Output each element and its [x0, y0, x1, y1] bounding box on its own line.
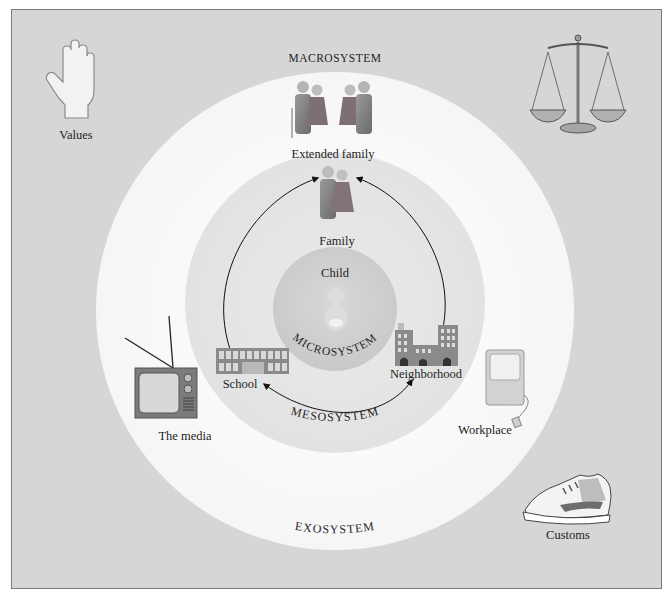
the-media-label: The media: [158, 429, 211, 444]
extended-family-label: Extended family: [292, 147, 375, 162]
school-label: School: [223, 377, 258, 392]
customs-label: Customs: [546, 528, 590, 543]
workplace-label: Workplace: [458, 423, 512, 438]
values-label: Values: [59, 128, 92, 143]
child-label: Child: [321, 266, 349, 281]
ecological-circles: MICROSYSTEM MESOSYSTEM EXOSYSTEM: [0, 0, 670, 599]
macrosystem-label: MACROSYSTEM: [288, 52, 381, 64]
sneaker-icon: [523, 474, 611, 524]
family-label: Family: [319, 234, 354, 249]
baby-icon: [325, 287, 347, 331]
school-building-icon: [216, 348, 289, 374]
hand-icon: [46, 40, 94, 118]
scales-of-justice-icon: [530, 35, 626, 133]
neighborhood-label: Neighborhood: [390, 367, 462, 382]
